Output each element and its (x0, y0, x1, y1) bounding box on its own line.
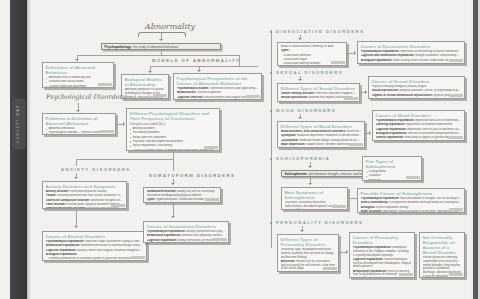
list-item: Behavioural explanation: attention and s… (147, 234, 226, 238)
arrow-down-icon (300, 230, 304, 232)
list-item: Psychotic and developmental disorders (130, 140, 217, 144)
sexual-causes-list: Physical and psychological (sexual) orig… (372, 85, 462, 97)
sidebar-rail-label: CONCEPT MAP (11, 98, 26, 150)
connector (76, 209, 77, 227)
schizophrenia-symptoms-card: Main Symptoms of Schizophrenia Delusions… (281, 187, 348, 210)
list-item: Mood (affective) disorders (130, 136, 217, 140)
card-title: Main Symptoms of Schizophrenia (285, 190, 345, 200)
list-item: Break in consciousness, memory, or both (281, 45, 344, 49)
different-disorders-list: Anxiety disorders Personality disorders … (130, 127, 217, 151)
list-item: Psychoanalytic explanation: represses ur… (46, 240, 144, 244)
schizophrenia-text: split between thought, emotion, and beha… (308, 172, 367, 176)
arrow-down-icon (197, 70, 201, 72)
section-header-somatoform: SOMATOFORM DISORDERS (149, 173, 235, 178)
arrow-right-icon (354, 51, 356, 55)
list-item: Types: hypochondriasis, conversion disor… (147, 198, 218, 203)
list-item: Biological explanation: (46, 253, 144, 257)
section-header-schizophrenia: SCHIZOPHRENIA (276, 156, 330, 161)
mood-causes-card: Causes of Mood Disorders Psychoanalytic … (372, 110, 465, 141)
section-header-mood: MOOD DISORDERS (276, 108, 336, 113)
definitions-card: Definitions of Abnormal Behaviour Behavi… (42, 62, 114, 88)
list-item: Panic disorder: intense panic; physical … (46, 203, 124, 207)
sexual-disorders-list: Gender identity disorder: feels that the… (281, 92, 357, 102)
list-item: Types: (281, 49, 344, 53)
bullet-dot-icon (270, 158, 272, 160)
card-title: Different Types of Sexual Disorders (281, 86, 357, 91)
page-title: Abnormality (145, 22, 195, 31)
list-item: Behavioural explanation: disordered beha… (46, 244, 144, 248)
list-item: Chemical imbalances of serotonin uptake … (46, 257, 144, 261)
list-item: Dissociative amnesia (281, 54, 344, 58)
list-item: Psychoanalytic models: repressed conflic… (177, 87, 259, 91)
anxiety-causes-list: Psychoanalytic explanation: represses ur… (46, 240, 144, 261)
list-item: Dysthymia: moderate depression; moderate… (281, 134, 362, 138)
list-item: Behavioural explanation: result of learn… (353, 270, 412, 278)
bullet-dot-icon (270, 72, 272, 74)
arrow-down-icon (75, 59, 79, 61)
list-item: Catatonic (366, 174, 419, 178)
mood-disorders-card: Different Types of Mood Disorders Mood d… (277, 121, 365, 148)
list-item: Deviates from social norms (46, 80, 111, 84)
section-header-anxiety: ANXIETY DISORDERS (61, 167, 131, 172)
anxiety-causes-card: Causes of Anxiety Disorders Psychoanalyt… (42, 231, 147, 261)
list-item: Social impairment / functioning (130, 144, 217, 148)
list-item: Sexual dysfunction: problem that impairs… (281, 96, 357, 100)
psychopathology-definition: Psychopathology: the study of abnormal b… (101, 43, 221, 50)
list-item: Bipolar disorder: severe mood swings, fr… (281, 147, 362, 148)
card-body: Abnormal behaviour is caused by biologic… (125, 88, 166, 99)
psych-perspectives-list: Psychoanalytic models: repressed conflic… (177, 87, 259, 99)
page-edge-shade (470, 0, 480, 299)
arrow-down-icon (308, 183, 312, 185)
list-item: Gender identity disorder: feels that the… (281, 92, 357, 96)
card-title: Five Types of Schizophrenia (366, 159, 419, 169)
schizophrenia-causes-list: Psychoanalytic explanation: mind breakdo… (361, 197, 462, 213)
card-title: Causes of Personality Disorders (353, 235, 412, 245)
card-title: Not Criminally Responsible on Account of… (423, 235, 462, 255)
arrow-down-icon (298, 38, 302, 40)
psychological-disorders-heading: Psychological Disorders (46, 93, 126, 102)
sexual-disorders-card: Different Types of Sexual Disorders Gend… (277, 83, 360, 102)
ncr-card: Not Criminally Responsible on Account of… (419, 232, 465, 278)
card-title: Causes of Anxiety Disorders (46, 234, 144, 239)
list-item: Cognitive explanation: depression seen a… (376, 128, 462, 132)
somatoform-causes-list: Psychoanalytic explanation: anxiety conv… (147, 230, 226, 242)
list-item: Psychological disorder — Mental Disorder… (46, 131, 113, 135)
card-title: Problems in Definition of Abnormal Behav… (46, 116, 113, 126)
card-title: Causes of Dissociative Disorders (361, 44, 462, 49)
psychopathology-term: Psychopathology: (105, 45, 133, 49)
schizophrenia-types-card: Five Types of Schizophrenia Disorganized… (362, 156, 422, 181)
list-item: Cognitive explanation: learned behaviour… (353, 258, 412, 269)
arrow-down-icon (308, 166, 312, 168)
arrow-down-icon (171, 216, 175, 218)
list-item: Psychoanalytic explanation: depression b… (376, 119, 462, 123)
personality-types-list: Unhealthy, rigid, maladaptive behaviour … (281, 248, 336, 272)
arrow-down-icon (298, 79, 302, 81)
arrow-down-icon (298, 117, 302, 119)
arrow-right-icon (346, 250, 348, 254)
section-header-dissociative: DISSOCIATIVE DISORDERS (276, 29, 364, 34)
arrow-down-icon (76, 110, 80, 112)
list-item: Learning explanation: depression as lear… (376, 123, 462, 127)
sidebar-shadow (27, 0, 31, 299)
personality-causes-card: Causes of Personality Disorders Psychoan… (349, 232, 415, 278)
list-item: Dissociative identity disorder (281, 62, 344, 66)
card-title: Causes of Sexual Disorders (372, 79, 462, 84)
arrow-down-icon (171, 183, 175, 185)
card-title: Possible Causes of Schizophrenia (361, 191, 462, 196)
card-title: Different Types of Personality Disorders (281, 237, 336, 247)
connector (150, 66, 258, 67)
bullet-dot-icon (270, 110, 272, 112)
list-item: Paraphilias: person's sexual arousal is … (281, 101, 357, 102)
connector (76, 159, 173, 160)
list-item: Psychoanalytic explanation: repression o… (361, 50, 462, 54)
list-item: Biological: excess dopamine activity (361, 206, 462, 210)
personality-causes-list: Psychoanalytic explanation: inadequate r… (353, 246, 412, 278)
somatoform-causes-card: Causes of Somatoform Disorders Psychoana… (143, 221, 229, 243)
anxiety-symptoms-card: Anxiety Disorders and Symptoms Anxiety d… (42, 181, 127, 209)
schizophrenia-definition: Schizophrenia: split between thought, em… (281, 170, 367, 177)
list-item: Cyclothymia: moderate mood swings; usual… (281, 139, 362, 143)
list-item: Cognitive theorists: irrational beliefs … (177, 96, 259, 100)
arrow-right-icon (365, 90, 367, 94)
list-item: Paranoid (366, 179, 419, 181)
ncr-body: Person found not criminally responsible … (423, 256, 462, 278)
